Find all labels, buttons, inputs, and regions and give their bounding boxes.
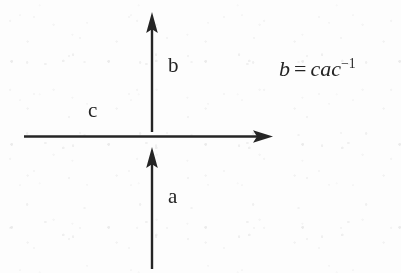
arrow-label-c: c — [88, 100, 97, 121]
arrow-label-b: b — [168, 55, 179, 76]
equation-operator: = — [294, 56, 306, 81]
arrow-horizontal — [24, 130, 273, 143]
conjugation-equation: b=cac−1 — [279, 58, 355, 80]
math-diagram-figure: b c a b=cac−1 — [0, 0, 401, 273]
arrow-label-a: a — [168, 186, 177, 207]
equation-rhs-exponent: −1 — [341, 56, 356, 71]
arrow-diagram-canvas — [0, 0, 401, 273]
arrow-up-top — [146, 12, 158, 132]
arrow-up-bottom — [146, 147, 158, 269]
equation-rhs-base: cac — [310, 56, 341, 81]
equation-lhs: b — [279, 56, 290, 81]
